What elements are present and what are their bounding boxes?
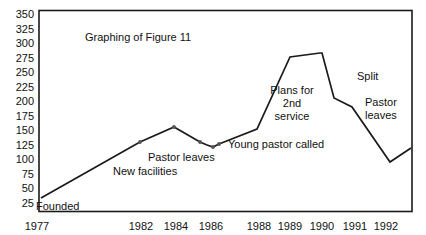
y-tick-label: 75 [22, 168, 34, 180]
y-tick-label: 150 [16, 124, 34, 136]
data-point-marker [211, 145, 215, 149]
annotation-plans-line3: service [275, 110, 310, 122]
y-tick-label: 225 [16, 81, 34, 93]
annotation-new-facilities: New facilities [113, 165, 178, 177]
data-point-marker [198, 140, 202, 144]
annotation-plans-line2: 2nd [283, 97, 301, 109]
y-tick-label: 125 [16, 139, 34, 151]
annotation-pastor-leaves-first: Pastor leaves [148, 151, 215, 163]
x-tick-label: 1989 [278, 220, 302, 232]
x-tick-label: 1988 [247, 220, 271, 232]
annotation-founded: Founded [36, 200, 79, 212]
y-tick-label: 175 [16, 110, 34, 122]
annotation-pastor-leaves-second-line1: Pastor [365, 96, 397, 108]
y-tick-label: 100 [16, 153, 34, 165]
y-tick-label: 275 [16, 52, 34, 64]
y-tick-label: 50 [22, 182, 34, 194]
annotation-young-pastor-called: Young pastor called [228, 138, 324, 150]
data-point-marker [138, 140, 142, 144]
data-point-marker [172, 125, 176, 129]
y-tick-label: 200 [16, 95, 34, 107]
y-tick-label: 300 [16, 37, 34, 49]
x-tick-label: 1977 [25, 220, 49, 232]
annotation-split: Split [357, 70, 378, 82]
y-tick-label: 350 [16, 8, 34, 20]
y-tick-label: 250 [16, 66, 34, 78]
chart-title: Graphing of Figure 11 [85, 31, 191, 43]
annotation-plans-line1: Plans for [270, 84, 314, 96]
y-tick-label: 325 [16, 23, 34, 35]
chart-screenshot: 350 325 300 275 250 225 200 175 150 125 … [0, 0, 426, 235]
data-series-line [41, 53, 411, 198]
x-tick-label: 1984 [164, 220, 188, 232]
y-tick-label: 25 [22, 197, 34, 209]
x-tick-label: 1990 [310, 220, 334, 232]
annotation-pastor-leaves-second-line2: leaves [365, 109, 397, 121]
line-chart: 350 325 300 275 250 225 200 175 150 125 … [0, 0, 426, 235]
x-tick-label: 1992 [374, 220, 398, 232]
x-tick-label: 1991 [343, 220, 367, 232]
x-tick-label: 1982 [129, 220, 153, 232]
x-tick-label: 1986 [199, 220, 223, 232]
data-point-marker [217, 142, 221, 146]
